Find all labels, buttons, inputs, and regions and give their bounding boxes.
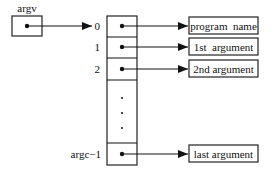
argv-pointer: argv [12, 2, 92, 36]
ellipsis-dot-icon [121, 127, 123, 129]
row-index: 2 [95, 63, 101, 75]
target-label: 2nd argument [193, 63, 254, 75]
argv-diagram: argv 0 program name 1 1st argument 2 [0, 0, 276, 173]
row-index: 1 [95, 41, 101, 53]
row-index: argc−1 [71, 148, 101, 160]
ellipsis-dot-icon [121, 97, 123, 99]
target-label: last argument [194, 148, 253, 160]
ellipsis-dot-icon [121, 112, 123, 114]
argv-label: argv [17, 2, 37, 14]
row-index: 0 [95, 20, 101, 32]
target-label: program name [190, 20, 257, 32]
argv-array [107, 16, 137, 165]
target-label: 1st argument [194, 41, 254, 53]
array-row-last: argc−1 last argument [71, 145, 258, 162]
